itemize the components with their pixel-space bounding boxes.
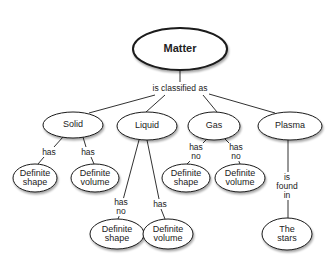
node-liquid-label: Liquid xyxy=(135,121,159,130)
connector-line xyxy=(89,95,155,113)
connector-line xyxy=(54,137,63,147)
connector-line xyxy=(146,95,165,112)
node-gas-shape-label: Definite shape xyxy=(171,169,202,188)
concept-map: MatterSolidLiquidGasPlasmaDefinite shape… xyxy=(0,0,327,262)
node-matter-label: Matter xyxy=(163,43,196,55)
node-plasma-label: Plasma xyxy=(275,121,305,130)
connector-line xyxy=(91,157,94,164)
connector-line xyxy=(203,95,217,112)
node-solid-volume-label: Definite volume xyxy=(80,169,111,188)
link-label-liquid-hasno: has no xyxy=(113,198,129,216)
node-gas-volume-label: Definite volume xyxy=(225,169,256,188)
node-liquid-shape-label: Definite shape xyxy=(102,225,133,244)
link-label-is-classified-as: is classified as xyxy=(152,84,209,93)
link-label-gas-hasno-1: has no xyxy=(188,143,204,161)
connector-line xyxy=(209,94,275,113)
link-label-gas-hasno-2: has no xyxy=(228,143,244,161)
node-solid-label: Solid xyxy=(63,120,83,129)
connector-line xyxy=(83,137,86,147)
link-label-solid-has-1: has xyxy=(41,148,57,157)
link-label-plasma-found: is found in xyxy=(275,173,298,200)
node-solid-shape-label: Definite shape xyxy=(20,169,51,188)
connector-line xyxy=(38,157,44,164)
connector-line xyxy=(123,140,139,200)
node-gas-label: Gas xyxy=(206,121,223,130)
link-label-solid-has-2: has xyxy=(80,148,96,157)
node-liquid-volume-label: Definite volume xyxy=(153,225,184,244)
connector-line xyxy=(161,209,165,219)
connector-line xyxy=(147,140,159,199)
node-stars-label: The stars xyxy=(277,225,297,244)
link-label-liquid-has: has xyxy=(152,200,168,209)
